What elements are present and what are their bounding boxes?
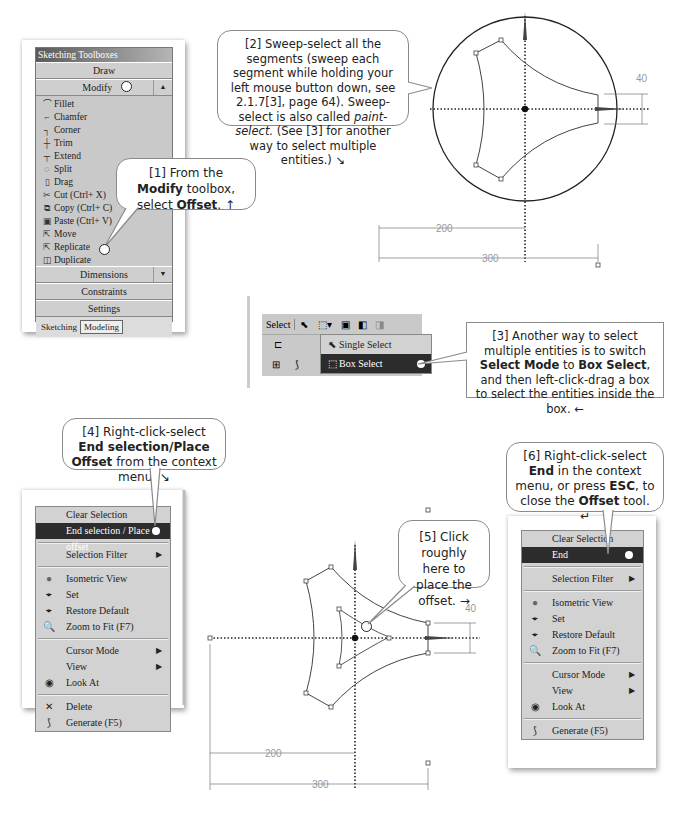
callout-6-pointer: [0, 0, 677, 815]
